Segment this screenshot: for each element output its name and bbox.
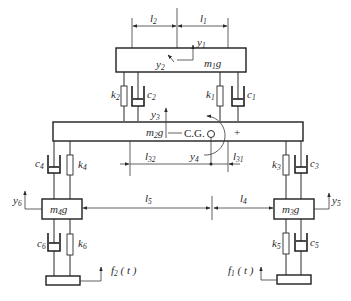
svg-text:l31: l31 <box>233 150 244 164</box>
center-of-gravity-label: C.G. <box>184 127 205 139</box>
svg-text:y3: y3 <box>150 108 160 122</box>
svg-text:c2: c2 <box>147 88 156 102</box>
dimension-l5: l5 <box>83 192 210 208</box>
suspension-model-diagram: l2 l1 m1g y1 y2 k2 c2 k1 <box>0 0 351 301</box>
damper-c6: c6 <box>37 219 60 276</box>
svg-text:l4: l4 <box>240 192 247 206</box>
road-input-left <box>46 276 80 285</box>
svg-text:y5: y5 <box>331 194 341 208</box>
svg-text:c3: c3 <box>310 157 319 171</box>
svg-text:c4: c4 <box>35 157 44 171</box>
svg-text:k5: k5 <box>272 237 281 251</box>
svg-text:c5: c5 <box>310 236 319 250</box>
svg-text:c1: c1 <box>247 88 256 102</box>
svg-text:k4: k4 <box>78 158 87 172</box>
dimension-l4: l4 <box>214 192 273 208</box>
displacement-y5: y5 <box>314 193 341 209</box>
spring-k4: k4 <box>67 141 87 199</box>
spring-k2: k2 <box>111 72 127 121</box>
damper-c4: c4 <box>35 141 60 199</box>
rotation-sign: + <box>234 126 240 138</box>
spring-k1: k1 <box>206 72 223 121</box>
svg-text:y1: y1 <box>196 36 206 50</box>
mass-m2-body <box>53 122 303 141</box>
road-input-right <box>277 275 311 284</box>
svg-text:k3: k3 <box>272 158 281 172</box>
svg-text:l5: l5 <box>145 192 152 206</box>
svg-text:l2: l2 <box>150 12 157 26</box>
spring-k3: k3 <box>272 141 289 199</box>
damper-c3: c3 <box>295 141 319 199</box>
displacement-y6: y6 <box>12 191 42 209</box>
svg-text:l1: l1 <box>200 12 207 26</box>
spring-k6: k6 <box>67 219 87 276</box>
dimension-l31: l31 <box>211 141 244 172</box>
center-of-gravity-marker <box>208 131 215 138</box>
damper-c1: c1 <box>232 72 256 121</box>
svg-text:f2 ( t ): f2 ( t ) <box>111 264 137 278</box>
spring-k5: k5 <box>272 219 289 275</box>
force-f2: f2 ( t ) <box>80 264 137 281</box>
svg-text:k6: k6 <box>78 237 87 251</box>
svg-text:y6: y6 <box>12 194 22 208</box>
force-f1: f1 ( t ) <box>228 264 277 280</box>
damper-c5: c5 <box>295 219 319 275</box>
svg-text:l32: l32 <box>145 150 156 164</box>
svg-text:k1: k1 <box>206 88 215 102</box>
svg-text:c6: c6 <box>37 237 46 251</box>
svg-text:k2: k2 <box>111 88 120 102</box>
svg-text:f1 ( t ): f1 ( t ) <box>228 264 254 278</box>
displacement-y4: y4 <box>189 150 199 164</box>
